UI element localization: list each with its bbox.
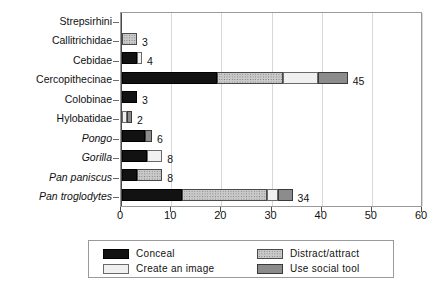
- y-axis-tick: [113, 22, 119, 23]
- bar-segment-conceal: [122, 189, 182, 201]
- category-label-pongo: Pongo: [82, 133, 112, 144]
- bar-value-label: 3: [142, 36, 148, 48]
- bar-segment-conceal: [122, 52, 137, 64]
- legend-label: Distract/attract: [290, 248, 359, 259]
- bar-row: 8: [121, 150, 421, 170]
- bar-segment-conceal: [122, 91, 137, 103]
- bar-segment-distract-attract: [122, 33, 137, 45]
- x-tick-label: 10: [164, 209, 176, 222]
- bar-value-label: 45: [353, 75, 365, 87]
- category-label-colobinae: Colobinae: [65, 94, 112, 105]
- y-axis-tick: [113, 100, 119, 101]
- x-tick-label: 30: [264, 209, 276, 222]
- bar-value-label: 3: [142, 94, 148, 106]
- bar-row: 34: [121, 189, 421, 209]
- y-axis-tick: [113, 178, 119, 179]
- y-axis-tick: [113, 41, 119, 42]
- bar-row: [121, 13, 421, 33]
- y-axis-tick: [113, 119, 119, 120]
- category-label-pan-troglodytes: Pan troglodytes: [39, 191, 112, 202]
- x-tick-label: 0: [117, 209, 123, 222]
- x-axis-tick-labels: 0102030405060: [0, 209, 444, 225]
- x-tick-label: 60: [415, 209, 427, 222]
- bar-segment-conceal: [122, 150, 147, 162]
- category-axis-labels: StrepsirhiniCallitrichidaeCebidaeCercopi…: [0, 12, 116, 207]
- y-axis-tick: [113, 197, 119, 198]
- bar-row: 2: [121, 111, 421, 131]
- legend-item-distract[interactable]: Distract/attract: [257, 248, 359, 259]
- category-label-pan-paniscus: Pan paniscus: [49, 172, 112, 183]
- y-axis-tick: [113, 80, 119, 81]
- x-tick-label: 50: [365, 209, 377, 222]
- bar-segment-use-social-tool: [145, 130, 153, 142]
- legend-label: Conceal: [136, 248, 175, 259]
- legend-swatch-distract: [257, 249, 283, 259]
- legend-swatch-social: [257, 264, 283, 274]
- y-axis-tick: [113, 158, 119, 159]
- bar-segment-conceal: [122, 169, 137, 181]
- chart-legend: ConcealDistract/attractCreate an imageUs…: [88, 240, 394, 278]
- bar-segment-use-social-tool: [127, 111, 132, 123]
- legend-item-create[interactable]: Create an image: [103, 263, 214, 274]
- legend-swatch-create: [103, 264, 129, 274]
- bar-segment-create-an-image: [267, 189, 277, 201]
- bar-row: 6: [121, 130, 421, 150]
- legend-swatch-conceal: [103, 249, 129, 259]
- bar-value-label: 2: [137, 114, 143, 126]
- gridline: [422, 13, 423, 206]
- figure-caption: [2, 283, 442, 293]
- bar-segment-distract-attract: [182, 189, 267, 201]
- category-label-gorilla: Gorilla: [82, 152, 112, 163]
- bar-segment-conceal: [122, 72, 217, 84]
- bar-segment-create-an-image: [137, 52, 142, 64]
- bar-value-label: 4: [147, 55, 153, 67]
- bar-segment-create-an-image: [147, 150, 162, 162]
- bar-row: 4: [121, 52, 421, 72]
- y-axis-tick: [113, 139, 119, 140]
- stacked-bar-chart: StrepsirhiniCallitrichidaeCebidaeCercopi…: [0, 0, 444, 293]
- category-label-callitrichidae: Callitrichidae: [52, 35, 112, 46]
- bar-segment-distract-attract: [137, 169, 162, 181]
- bar-row: 3: [121, 91, 421, 111]
- category-label-cercopithecinae: Cercopithecinae: [36, 74, 112, 85]
- bar-row: 3: [121, 33, 421, 53]
- bar-segment-conceal: [122, 130, 145, 142]
- bar-value-label: 6: [157, 133, 163, 145]
- y-axis-tick: [113, 61, 119, 62]
- x-tick-label: 20: [214, 209, 226, 222]
- bar-segment-use-social-tool: [318, 72, 348, 84]
- bar-value-label: 8: [167, 172, 173, 184]
- category-label-cebidae: Cebidae: [73, 55, 112, 66]
- x-tick-label: 40: [315, 209, 327, 222]
- legend-label: Use social tool: [290, 263, 360, 274]
- category-label-strepsirhini: Strepsirhini: [59, 16, 112, 27]
- bar-row: 45: [121, 72, 421, 92]
- bar-segment-distract-attract: [217, 72, 282, 84]
- plot-area: 34453268834: [120, 12, 422, 207]
- category-label-hylobatidae: Hylobatidae: [57, 113, 112, 124]
- bar-value-label: 8: [167, 153, 173, 165]
- legend-label: Create an image: [136, 263, 214, 274]
- legend-item-conceal[interactable]: Conceal: [103, 248, 175, 259]
- bar-row: 8: [121, 169, 421, 189]
- bar-value-label: 34: [298, 192, 310, 204]
- bar-segment-use-social-tool: [278, 189, 293, 201]
- bar-segment-create-an-image: [283, 72, 318, 84]
- legend-item-social[interactable]: Use social tool: [257, 263, 360, 274]
